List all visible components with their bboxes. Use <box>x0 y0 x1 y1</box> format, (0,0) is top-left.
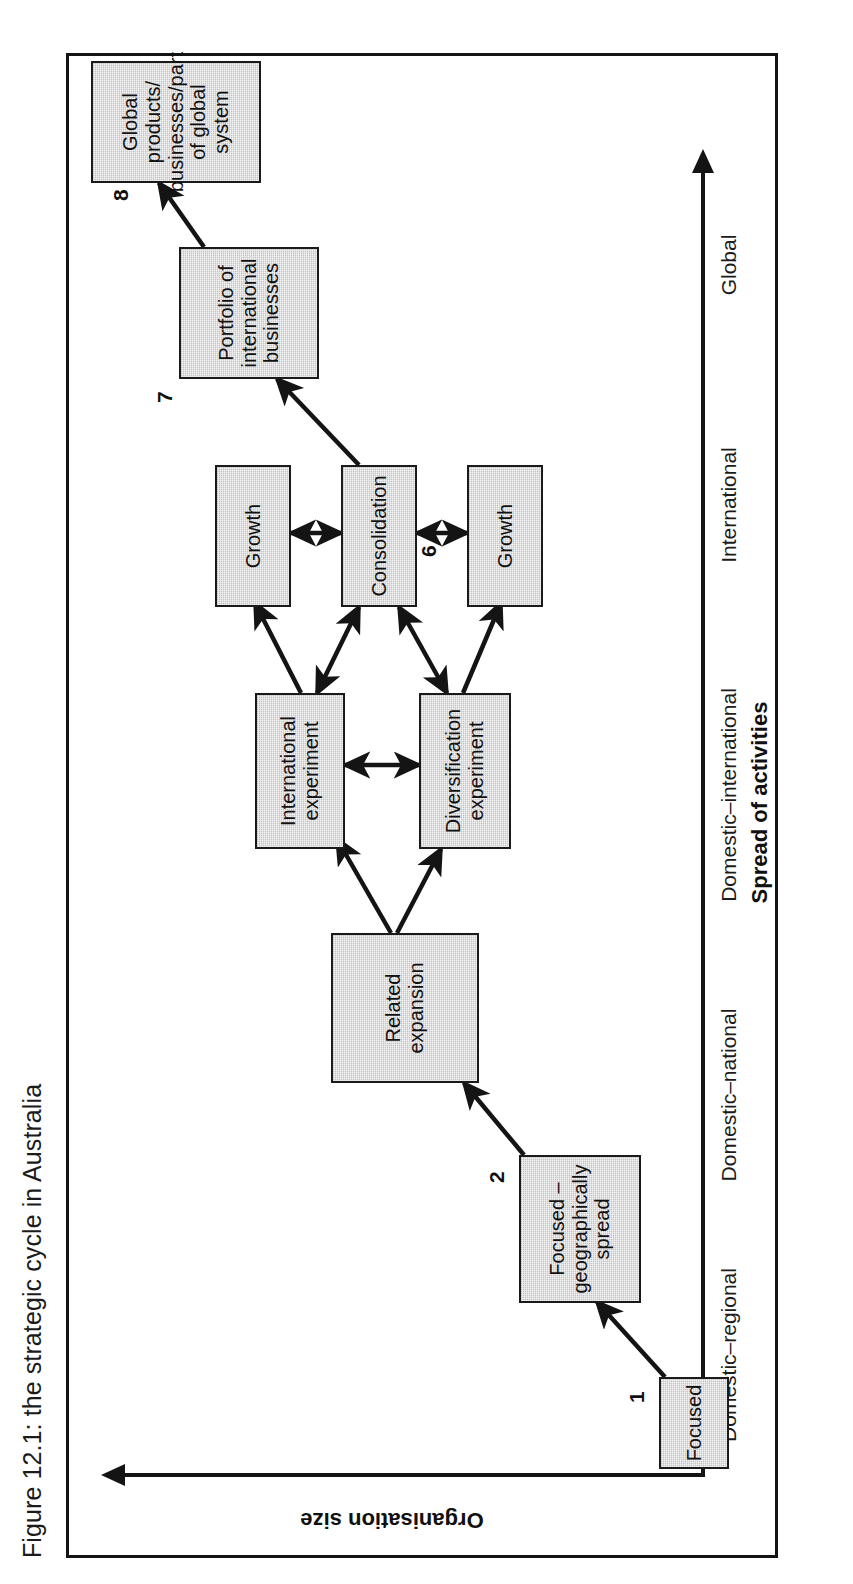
arrow-international-experiment-to-consolidation-bidirectional <box>317 607 359 693</box>
y-axis-arrowhead-icon <box>101 1464 125 1486</box>
y-axis-title: Organisation size <box>152 1507 632 1533</box>
x-tick-label-domestic-national: Domestic–national <box>717 1009 741 1182</box>
figure-title: Figure 12.1: the strategic cycle in Aust… <box>18 1084 47 1558</box>
figure-frame: Spread of activities Organisation size D… <box>66 53 778 1558</box>
step-number-7: 7 <box>153 391 177 403</box>
x-axis-line <box>701 171 705 1477</box>
node-global-products-businesses[interactable]: Global products/ businesses/part of glob… <box>91 61 261 183</box>
arrow-international-experiment-to-growth-upper <box>255 603 301 693</box>
arrow-diversification-experiment-to-consolidation-bidirectional <box>399 607 447 693</box>
arrow-related-expansion-to-diversification-experiment <box>397 849 441 933</box>
rotated-page-wrapper: Figure 12.1: the strategic cycle in Aust… <box>0 0 853 1584</box>
y-axis-line <box>125 1473 705 1477</box>
step-number-1: 1 <box>625 1391 649 1403</box>
x-tick-label-domestic-international: Domestic–international <box>717 688 741 902</box>
figure-container: Figure 12.1: the strategic cycle in Aust… <box>0 0 853 1584</box>
x-axis-title: Spread of activities <box>747 50 773 1555</box>
arrow-related-expansion-to-international-experiment <box>337 839 391 933</box>
arrow-focused-to-focused-geographically-spread <box>597 1302 665 1377</box>
node-focused-geographically-spread[interactable]: Focused – geographically spread <box>519 1155 641 1303</box>
step-number-2: 2 <box>485 1171 509 1183</box>
x-axis-arrowhead-icon <box>692 149 714 173</box>
x-tick-label-global: Global <box>717 235 741 296</box>
node-diversification-experiment[interactable]: Diversification experiment <box>419 693 511 849</box>
node-growth-upper[interactable]: Growth <box>215 465 291 607</box>
x-tick-label-international: International <box>717 447 741 563</box>
arrow-consolidation-to-portfolio <box>277 379 359 465</box>
node-growth-lower[interactable]: Growth <box>467 465 543 607</box>
arrow-focused-spread-to-related-expansion <box>464 1083 524 1155</box>
arrow-portfolio-to-global-products <box>159 183 204 247</box>
node-portfolio-of-international-businesses[interactable]: Portfolio of international businesses <box>179 247 319 379</box>
arrow-diversification-experiment-to-growth-lower <box>463 603 501 693</box>
node-consolidation[interactable]: Consolidation <box>341 465 417 607</box>
node-focused[interactable]: Focused <box>659 1377 729 1469</box>
step-number-6: 6 <box>417 545 441 557</box>
node-related-expansion[interactable]: Related expansion <box>331 933 479 1083</box>
node-international-experiment[interactable]: International experiment <box>255 693 345 849</box>
